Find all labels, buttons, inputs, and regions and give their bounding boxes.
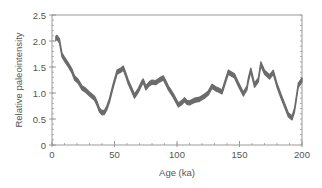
x-tick-label: 150 — [232, 149, 248, 160]
x-tick-label: 50 — [109, 149, 120, 160]
plot-frame — [52, 15, 302, 145]
y-axis-label: Relative paleointensity — [13, 32, 24, 127]
data-band — [56, 35, 302, 120]
x-tick-label: 200 — [294, 149, 310, 160]
tick-labels: 05010015020000.51.01.52.02.5 — [33, 10, 310, 161]
minor-ticks — [52, 15, 302, 145]
y-tick-label: 0.5 — [33, 114, 46, 125]
major-ticks — [49, 15, 302, 147]
x-tick-label: 100 — [169, 149, 185, 160]
y-tick-label: 1.5 — [33, 62, 46, 73]
y-tick-label: 2.0 — [33, 36, 46, 47]
x-axis-label: Age (ka) — [159, 167, 195, 178]
paleointensity-chart: 05010015020000.51.01.52.02.5 Age (ka) Re… — [0, 0, 322, 188]
y-tick-label: 1.0 — [33, 88, 46, 99]
y-tick-label: 2.5 — [33, 10, 46, 21]
x-tick-label: 0 — [49, 149, 54, 160]
plot-border — [52, 15, 302, 145]
y-tick-label: 0 — [41, 140, 46, 151]
